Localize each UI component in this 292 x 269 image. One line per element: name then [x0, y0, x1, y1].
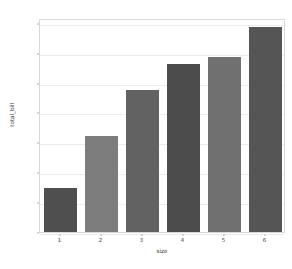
- x-tick-label-4: 4: [173, 238, 193, 243]
- x-tick-label-5: 5: [214, 238, 234, 243]
- x-tick-mark-1: [59, 234, 60, 236]
- x-tick-mark-5: [223, 234, 224, 236]
- x-tick-label-2: 2: [91, 238, 111, 243]
- x-tick-label-3: 3: [132, 238, 152, 243]
- bar-1: [44, 188, 77, 232]
- bar-4: [167, 64, 200, 232]
- x-tick-mark-2: [100, 234, 101, 236]
- x-axis-label: size: [39, 249, 285, 255]
- x-axis-tick-group: 123456: [39, 234, 285, 248]
- bar-6: [249, 27, 282, 232]
- bar-3: [126, 90, 159, 232]
- bar-series: [40, 20, 284, 232]
- bar-2: [85, 136, 118, 232]
- x-tick-mark-6: [264, 234, 265, 236]
- x-tick-mark-3: [141, 234, 142, 236]
- bar-5: [208, 57, 241, 232]
- y-axis-label: total_bill: [10, 85, 16, 145]
- x-tick-label-1: 1: [50, 238, 70, 243]
- bar-chart-figure: total_bill 05101520253035 123456 size: [0, 0, 292, 269]
- x-tick-mark-4: [182, 234, 183, 236]
- x-tick-label-6: 6: [255, 238, 275, 243]
- plot-area: [39, 19, 285, 233]
